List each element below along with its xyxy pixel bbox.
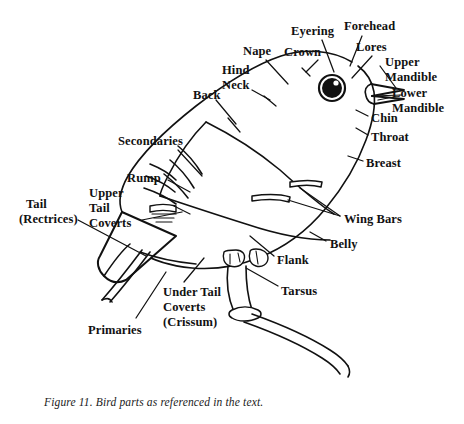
label-under-tail-coverts-line1: Under Tail [163,285,221,300]
wing-bar-upper [290,181,322,188]
label-rump: Rump [127,171,161,186]
label-lower-mandible-line1: Lower [392,86,427,101]
label-throat: Throat [371,130,409,145]
label-belly: Belly [330,237,358,252]
tarsus-right-edge [246,266,252,310]
label-hind-neck-line1: Hind [222,63,250,78]
body-outline-front [258,66,375,258]
covert-tip-cluster [150,205,176,213]
leader-wing-bars-2 [288,200,340,216]
leader-hind-neck-tick [264,96,276,106]
leader-wing-bars [300,188,340,216]
label-eyering: Eyering [291,24,334,39]
label-lower-mandible-line2: Mandible [392,101,444,116]
leader-crown [306,60,318,72]
leader-throat [356,128,368,135]
label-flank: Flank [277,253,309,268]
secondary-feather-1 [178,146,202,174]
label-primaries: Primaries [88,323,142,338]
eye-highlight [333,80,338,85]
leader-tarsus [246,268,278,286]
label-tail-line1: Tail [26,197,47,212]
eye-pupil [322,78,342,98]
label-crown: Crown [284,45,321,60]
label-breast: Breast [366,156,401,171]
label-tail-rectrices-line2: (Rectrices) [19,212,78,227]
leader-upper-tail-coverts [142,212,182,220]
label-secondaries: Secondaries [118,134,183,149]
tarsus-joint [229,307,261,321]
label-upper-mandible-line1: Upper [385,55,420,70]
leg-feathering [223,250,244,267]
leader-back-tick [228,118,240,132]
leader-chin [356,110,368,116]
label-under-tail-coverts-line2: Coverts [163,300,205,315]
label-hind-neck-line2: Neck [222,78,249,93]
label-upper-tail-coverts-line1: Upper [89,186,124,201]
label-chin: Chin [371,111,398,126]
label-forehead: Forehead [344,19,395,34]
leader-lower-mandible [378,98,388,100]
bird-anatomy-figure: Eyering Forehead Nape Crown Lores Upper … [0,0,464,424]
tarsus-left-edge [227,266,234,312]
leader-under-tail-coverts [184,258,204,282]
leader-breast [348,156,363,161]
leader-nape [266,60,288,84]
wing-bar-lower [252,195,290,202]
label-nape: Nape [243,44,271,59]
label-upper-tail-coverts-line2: Tail [89,201,110,216]
label-back: Back [193,88,221,103]
label-upper-tail-coverts-line3: Coverts [89,216,131,231]
perch-branch-top [252,314,348,366]
perch-branch-tip [348,366,350,377]
leader-primaries [136,272,166,318]
label-upper-mandible-line2: Mandible [385,70,437,85]
wing-lower-edge [160,196,330,240]
label-under-tail-coverts-line3: (Crissum) [163,315,217,330]
leader-lores [352,56,372,78]
leg-upper-2 [249,249,268,267]
leader-rump [168,180,190,192]
figure-caption: Figure 11. Bird parts as referenced in t… [44,396,263,408]
leader-eyering [322,40,334,72]
label-wing-bars: Wing Bars [344,212,402,227]
label-lores: Lores [356,40,387,55]
label-tarsus: Tarsus [281,284,317,299]
leader-back [216,100,236,124]
